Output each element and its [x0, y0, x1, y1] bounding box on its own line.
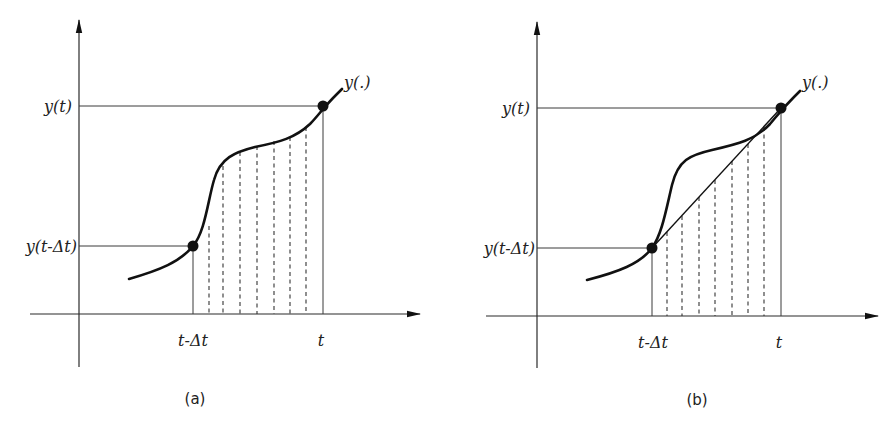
dashed-subdivisions — [209, 127, 306, 314]
curve-y — [587, 91, 800, 280]
y-t-minus-dt-label: y(t-Δt) — [25, 237, 77, 256]
figure-canvas: y(.) y(t) y(t-Δt) t-Δt t (a) — [0, 0, 889, 426]
point-t — [318, 101, 329, 112]
chord-line — [652, 108, 781, 248]
t-label: t — [776, 333, 783, 352]
t-minus-dt-label: t-Δt — [178, 331, 208, 350]
point-t-minus-dt — [188, 241, 199, 252]
y-t-label: y(t) — [501, 99, 530, 118]
t-label: t — [318, 331, 325, 350]
panel-b: y(.) y(t) y(t-Δt) t-Δt t (b) — [483, 22, 878, 409]
panel-caption: (b) — [686, 391, 707, 409]
point-t-minus-dt — [647, 243, 658, 254]
curve-y — [129, 89, 342, 279]
t-minus-dt-label: t-Δt — [638, 333, 668, 352]
point-t — [776, 103, 787, 114]
dashed-subdivisions — [667, 127, 764, 316]
y-t-minus-dt-label: y(t-Δt) — [483, 239, 535, 258]
y-t-label: y(t) — [43, 97, 72, 116]
panel-caption: (a) — [185, 390, 206, 408]
panel-a: y(.) y(t) y(t-Δt) t-Δt t (a) — [25, 20, 420, 408]
curve-label: y(.) — [343, 73, 371, 92]
curve-label: y(.) — [801, 73, 829, 92]
